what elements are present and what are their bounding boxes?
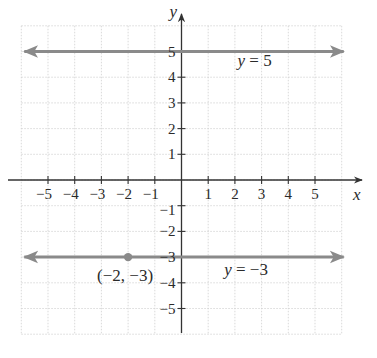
y-tick-label: −2 xyxy=(160,223,176,239)
x-tick-label: 2 xyxy=(231,186,239,202)
x-tick-label: −4 xyxy=(63,186,79,202)
y-tick-label: −4 xyxy=(160,275,176,291)
y-tick-label: 4 xyxy=(168,69,176,85)
x-tick-label: −2 xyxy=(116,186,132,202)
point-marker xyxy=(124,253,132,261)
y-tick-label: 3 xyxy=(168,95,176,111)
x-tick-label: −3 xyxy=(89,186,105,202)
y-tick-label: 2 xyxy=(168,121,176,137)
coordinate-graph: −5−4−3−2−11234554321−1−2−3−4−5yxy = 5y =… xyxy=(0,0,377,358)
x-axis-label: x xyxy=(352,185,361,204)
x-tick-label: 4 xyxy=(285,186,293,202)
y-tick-label: −1 xyxy=(160,202,176,218)
x-tick-label: −1 xyxy=(143,186,159,202)
y-tick-label: 5 xyxy=(168,44,176,60)
y-tick-label: −3 xyxy=(160,249,176,265)
x-tick-label: 3 xyxy=(258,186,266,202)
x-tick-label: −5 xyxy=(36,186,52,202)
x-tick-label: 1 xyxy=(204,186,212,202)
axes xyxy=(8,14,362,333)
line-y-neg3-label: y = −3 xyxy=(222,260,268,279)
y-tick-label: −5 xyxy=(160,301,176,317)
x-tick-label: 5 xyxy=(311,186,319,202)
point-label: (−2, −3) xyxy=(97,266,153,285)
line-y-5-label: y = 5 xyxy=(236,51,272,70)
horizontal-lines xyxy=(24,52,343,262)
labels: −5−4−3−2−11234554321−1−2−3−4−5yxy = 5y =… xyxy=(36,2,361,317)
y-axis-label: y xyxy=(168,2,178,21)
y-tick-label: 1 xyxy=(168,146,176,162)
